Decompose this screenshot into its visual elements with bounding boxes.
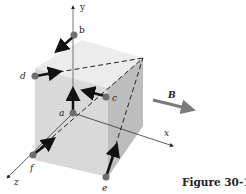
point-e (103, 174, 110, 181)
figure-caption: Figure 30-11 (182, 176, 246, 188)
label-e: e (102, 183, 107, 193)
point-d (32, 73, 39, 80)
label-field-b: B (167, 90, 176, 100)
point-f (30, 152, 37, 159)
label-c: c (112, 93, 117, 103)
label-y-axis: y (79, 2, 86, 12)
point-c (103, 94, 110, 101)
label-f: f (29, 163, 35, 173)
point-a (70, 110, 77, 117)
point-b (71, 32, 78, 39)
label-d: d (20, 71, 26, 81)
label-b: b (79, 25, 85, 35)
label-z-axis: z (13, 177, 19, 187)
label-x-axis: x (164, 128, 169, 138)
cube-diagram: y x z b d c a f e B (0, 0, 246, 194)
field-arrow-b (153, 100, 190, 109)
label-a: a (59, 108, 64, 118)
